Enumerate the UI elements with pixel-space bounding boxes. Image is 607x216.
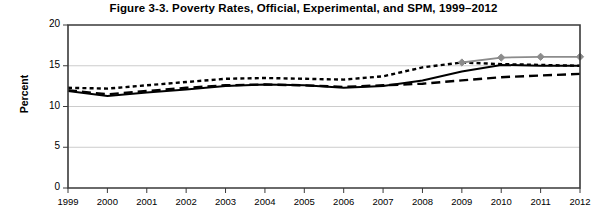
x-tick-label: 2007: [363, 196, 403, 207]
x-tick-label: 2002: [166, 196, 206, 207]
x-tick-label: 2006: [324, 196, 364, 207]
x-axis-ticks: [63, 25, 580, 193]
x-tick-label: 2008: [402, 196, 442, 207]
poverty-rates-figure: Figure 3-3. Poverty Rates, Official, Exp…: [0, 0, 607, 216]
x-tick-label: 2003: [206, 196, 246, 207]
x-tick-label: 2004: [245, 196, 285, 207]
x-tick-label: 2005: [284, 196, 324, 207]
series-line-experimental: [68, 63, 580, 89]
x-tick-label: 1999: [48, 196, 88, 207]
series-line-anchored: [68, 74, 580, 94]
x-tick-label: 2009: [442, 196, 482, 207]
x-tick-label: 2011: [521, 196, 561, 207]
series-line-spm: [462, 57, 580, 63]
y-tick-label: 5: [30, 140, 60, 151]
x-tick-label: 2010: [481, 196, 521, 207]
y-tick-label: 0: [30, 181, 60, 192]
y-tick-label: 20: [30, 18, 60, 29]
chart-plot-area: [0, 0, 607, 216]
data-series-group: [68, 53, 584, 96]
x-tick-label: 2001: [127, 196, 167, 207]
series-marker-spm: [458, 59, 465, 66]
y-tick-label: 10: [30, 100, 60, 111]
y-tick-label: 15: [30, 59, 60, 70]
x-tick-label: 2000: [87, 196, 127, 207]
series-marker-spm: [498, 54, 505, 61]
x-tick-label: 2012: [560, 196, 600, 207]
series-marker-spm: [537, 53, 544, 60]
